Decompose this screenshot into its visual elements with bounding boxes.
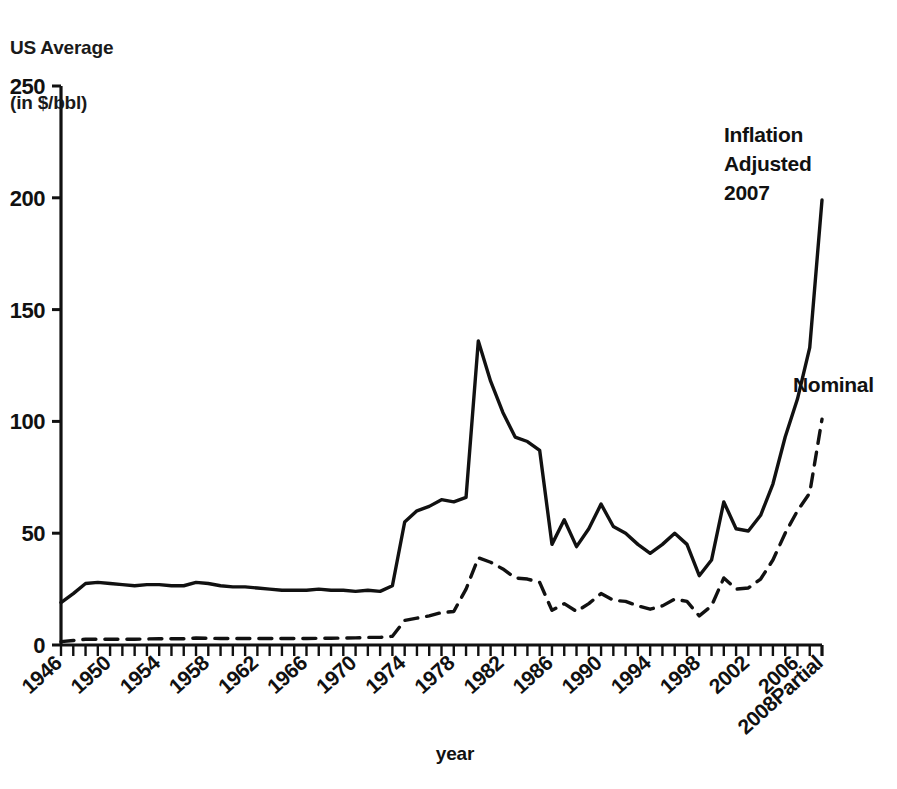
x-axis-tick-label-group: 1974 bbox=[361, 650, 410, 698]
y-axis-tick-label: 100 bbox=[10, 409, 45, 434]
y-axis-title-line-1: US Average bbox=[10, 34, 113, 62]
x-axis-tick-label: 1950 bbox=[66, 651, 115, 698]
x-axis-tick-label: 1982 bbox=[459, 651, 508, 698]
inflation-adjusted-label: Adjusted bbox=[724, 152, 811, 175]
x-axis-tick-label: 1946 bbox=[17, 651, 66, 698]
x-axis-tick-label: 1966 bbox=[263, 651, 312, 698]
x-axis-tick-label: 1954 bbox=[115, 650, 164, 698]
x-axis-tick-label: 1994 bbox=[606, 650, 655, 698]
x-axis-title: year bbox=[436, 743, 475, 764]
x-axis-tick-label: 1986 bbox=[508, 651, 557, 698]
y-axis-title: US Average (in $/bbl) bbox=[10, 6, 113, 144]
x-axis-tick-label-group: 1962 bbox=[213, 651, 262, 698]
x-axis-tick-label-group: 1990 bbox=[557, 651, 606, 698]
x-axis-tick-label-group: 2002 bbox=[704, 651, 753, 698]
y-axis-title-line-2: (in $/bbl) bbox=[10, 89, 113, 117]
x-axis-tick-label: 1970 bbox=[312, 651, 361, 698]
x-axis-tick-label: 1990 bbox=[557, 651, 606, 698]
x-axis-tick-label: 2002 bbox=[704, 651, 753, 698]
x-axis-tick-label-group: 1966 bbox=[263, 651, 312, 698]
y-axis-tick-label: 200 bbox=[10, 186, 45, 211]
x-axis-tick-label: 1962 bbox=[213, 651, 262, 698]
x-axis-tick-label-group: 1950 bbox=[66, 651, 115, 698]
y-axis-tick-label: 150 bbox=[10, 298, 45, 323]
series-line-inflation-adjusted bbox=[61, 200, 822, 602]
x-axis-tick-label: 1978 bbox=[410, 650, 459, 698]
x-axis-tick-label-group: 1978 bbox=[410, 650, 459, 698]
inflation-adjusted-label: Inflation bbox=[724, 123, 803, 146]
series-line-nominal bbox=[61, 419, 822, 641]
y-axis-tick-label: 0 bbox=[33, 633, 45, 658]
x-axis-tick-label: 1998 bbox=[655, 650, 704, 698]
x-axis-tick-label-group: 1958 bbox=[164, 650, 213, 698]
x-axis-tick-label-group: 1946 bbox=[17, 651, 66, 698]
y-axis-tick-label: 50 bbox=[22, 521, 46, 546]
x-axis-tick-label-group: 1954 bbox=[115, 650, 164, 698]
x-axis-tick-label-group: 1982 bbox=[459, 651, 508, 698]
x-axis-tick-label-group: 1994 bbox=[606, 650, 655, 698]
x-axis-tick-label-group: 1986 bbox=[508, 651, 557, 698]
inflation-adjusted-label: 2007 bbox=[724, 181, 770, 204]
chart-plot-area: 0501001502002501946195019541958196219661… bbox=[0, 0, 897, 789]
x-axis-tick-label-group: 1970 bbox=[312, 651, 361, 698]
chart-figure: US Average (in $/bbl) 050100150200250194… bbox=[0, 0, 897, 789]
x-axis-tick-label: 1958 bbox=[164, 650, 213, 698]
nominal-label: Nominal bbox=[793, 373, 874, 396]
x-axis-tick-label-group: 1998 bbox=[655, 650, 704, 698]
x-axis-tick-label: 1974 bbox=[361, 650, 410, 698]
